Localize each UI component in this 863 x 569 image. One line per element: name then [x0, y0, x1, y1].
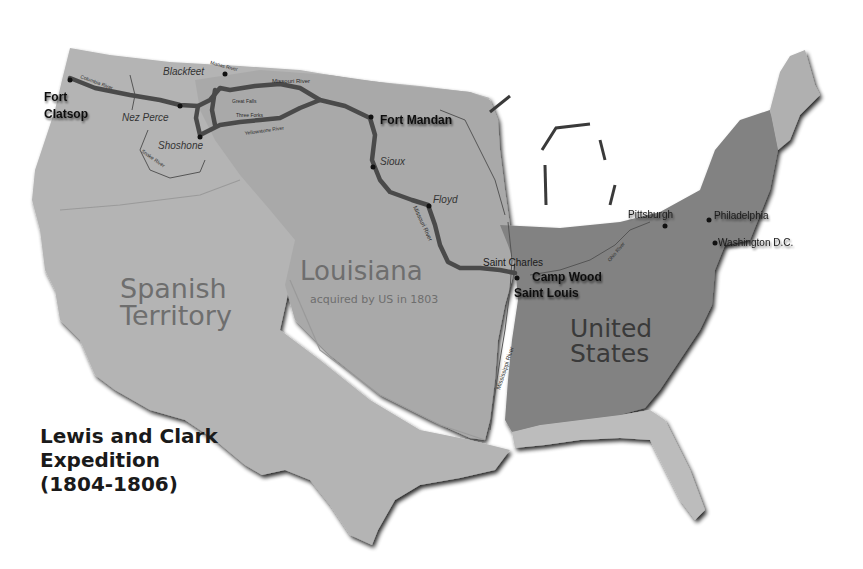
map-title: Lewis and Clark Expedition (1804-1806): [40, 424, 218, 496]
label-shoshone: Shoshone: [158, 140, 203, 151]
label-spanish-territory-2: Territory: [119, 300, 232, 331]
label-washington-dc: Washington D.C.: [718, 237, 793, 248]
label-louisiana: Louisiana: [300, 256, 423, 286]
stop-floyd: [427, 204, 432, 209]
label-fort-mandan: Fort Mandan: [380, 113, 452, 127]
title-line-1: Lewis and Clark: [40, 424, 218, 448]
stop-camp-wood: [515, 276, 520, 281]
stop-fort-clatsop: [68, 78, 73, 83]
title-line-2: Expedition: [40, 448, 218, 472]
region-new-england-north: [770, 50, 820, 150]
label-saint-louis: Saint Louis: [514, 286, 579, 300]
region-florida: [512, 410, 705, 520]
label-louisiana-acquired: acquired by US in 1803: [310, 293, 438, 306]
label-nez-perce: Nez Perce: [122, 112, 169, 123]
stop-philadelphia: [707, 218, 712, 223]
stop-washington: [713, 241, 718, 246]
label-blackfeet: Blackfeet: [163, 66, 205, 77]
stop-sioux: [371, 165, 376, 170]
stop-fort-mandan: [369, 115, 374, 120]
label-pittsburgh: Pittsburgh: [628, 209, 673, 220]
great-lakes: [490, 96, 700, 212]
label-floyd: Floyd: [433, 194, 458, 205]
label-united-states-2: States: [570, 339, 649, 368]
stop-shoshone: [198, 135, 203, 140]
label-philadelphia: Philadelphia: [714, 210, 769, 221]
label-saint-charles: Saint Charles: [483, 257, 543, 268]
stop-pittsburgh: [663, 224, 668, 229]
title-line-3: (1804-1806): [40, 472, 218, 496]
label-sioux: Sioux: [380, 156, 406, 167]
label-three-forks: Three Forks: [236, 112, 263, 118]
label-fort-clatsop-1: Fort: [44, 90, 67, 104]
label-camp-wood: Camp Wood: [532, 270, 602, 284]
label-great-falls: Great Falls: [232, 98, 257, 104]
stop-nez-perce: [178, 104, 183, 109]
label-fort-clatsop-2: Clatsop: [44, 107, 88, 121]
stop-blackfeet: [223, 72, 228, 77]
label-missouri-river-upper: Missouri River: [272, 78, 310, 84]
